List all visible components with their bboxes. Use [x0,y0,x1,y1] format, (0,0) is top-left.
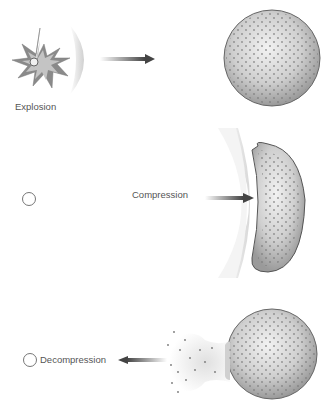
compression-label: Compression [132,189,188,200]
arrow-right-icon [205,196,243,200]
explosion-label: Explosion [15,101,56,112]
decompression-label: Decompression [40,354,106,365]
compression-panel [23,128,306,278]
small-circle-icon [24,354,37,367]
explosion-panel [12,10,320,106]
explosion-core [30,58,38,66]
arrow-left-icon [118,356,128,364]
arrow-right-icon [100,57,145,61]
small-circle-icon [23,193,36,206]
puff-cloud [169,333,230,391]
shock-wave-icon [70,25,84,95]
